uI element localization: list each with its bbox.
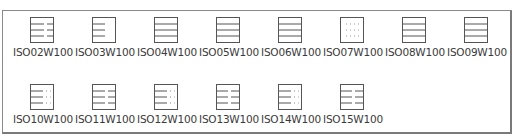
linetype-item[interactable]: ISO15W100 bbox=[322, 84, 384, 134]
linetype-label: ISO03W100 bbox=[74, 46, 136, 58]
linetype-item[interactable]: ISO03W100 bbox=[74, 17, 136, 67]
linetype-swatch-icon bbox=[154, 17, 178, 43]
linetype-item[interactable]: ISO10W100 bbox=[12, 84, 74, 134]
linetype-label: ISO08W100 bbox=[384, 46, 446, 58]
linetype-item[interactable]: ISO14W100 bbox=[260, 84, 322, 134]
linetype-swatch-icon bbox=[154, 84, 178, 110]
linetype-item[interactable]: ISO12W100 bbox=[136, 84, 198, 134]
linetype-item[interactable]: ISO04W100 bbox=[136, 17, 198, 67]
linetype-swatch-icon bbox=[216, 84, 240, 110]
linetype-item[interactable]: ISO13W100 bbox=[198, 84, 260, 134]
linetype-swatch-icon bbox=[92, 17, 116, 43]
linetype-label: ISO09W100 bbox=[446, 46, 508, 58]
linetype-label: ISO04W100 bbox=[136, 46, 198, 58]
linetype-item[interactable]: ISO09W100 bbox=[446, 17, 508, 67]
linetype-item[interactable]: ISO07W100 bbox=[322, 17, 384, 67]
linetype-label: ISO06W100 bbox=[260, 46, 322, 58]
linetype-swatch-icon bbox=[92, 84, 116, 110]
linetype-item[interactable]: ISO06W100 bbox=[260, 17, 322, 67]
linetype-label: ISO10W100 bbox=[12, 113, 74, 125]
linetype-item[interactable]: ISO11W100 bbox=[74, 84, 136, 134]
linetype-swatch-icon bbox=[340, 17, 364, 43]
linetype-label: ISO02W100 bbox=[12, 46, 74, 58]
linetype-swatch-icon bbox=[30, 84, 54, 110]
linetype-label: ISO13W100 bbox=[198, 113, 260, 125]
linetype-item[interactable]: ISO02W100 bbox=[12, 17, 74, 67]
linetype-swatch-icon bbox=[278, 17, 302, 43]
linetype-swatch-icon bbox=[402, 17, 426, 43]
linetype-label: ISO12W100 bbox=[136, 113, 198, 125]
linetype-label: ISO05W100 bbox=[198, 46, 260, 58]
linetype-item[interactable]: ISO08W100 bbox=[384, 17, 446, 67]
linetype-label: ISO15W100 bbox=[322, 113, 384, 125]
linetype-label: ISO07W100 bbox=[322, 46, 384, 58]
linetype-label: ISO11W100 bbox=[74, 113, 136, 125]
linetype-swatch-icon bbox=[30, 17, 54, 43]
linetype-swatch-icon bbox=[340, 84, 364, 110]
linetype-item[interactable]: ISO05W100 bbox=[198, 17, 260, 67]
linetype-swatch-icon bbox=[464, 17, 488, 43]
linetype-label: ISO14W100 bbox=[260, 113, 322, 125]
linetype-swatch-icon bbox=[278, 84, 302, 110]
linetype-swatch-icon bbox=[216, 17, 240, 43]
